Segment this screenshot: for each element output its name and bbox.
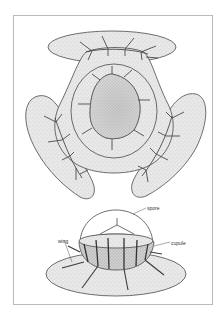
- label-cupule: cupule: [171, 240, 186, 246]
- winged-seed-illustration: spore cupule wing: [0, 0, 224, 310]
- label-spore: spore: [147, 205, 160, 211]
- cupule-rim: [79, 234, 153, 248]
- top-view: [26, 31, 206, 199]
- label-wing: wing: [58, 238, 69, 244]
- side-view: [46, 208, 186, 296]
